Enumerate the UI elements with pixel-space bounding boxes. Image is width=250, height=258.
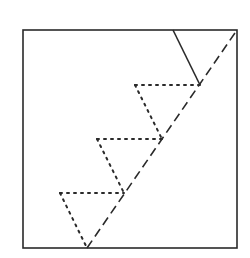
frame-square — [23, 30, 237, 248]
diagram-canvas — [0, 0, 250, 258]
dotted-slant-line-1 — [135, 85, 162, 139]
dotted-triangles — [60, 85, 200, 248]
dotted-slant-line-3 — [60, 193, 87, 248]
solid-segment-line — [173, 30, 200, 85]
dotted-slant-line-2 — [97, 139, 124, 193]
